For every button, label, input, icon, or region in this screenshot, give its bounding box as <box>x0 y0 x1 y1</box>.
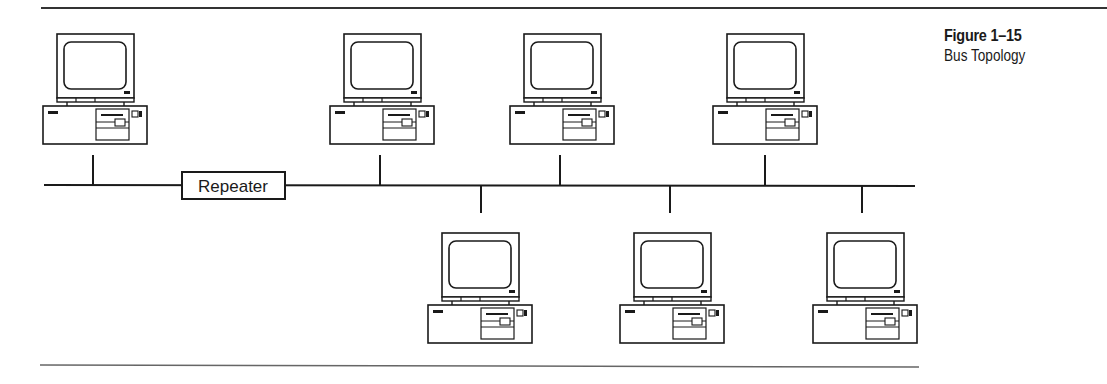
figure-number: Figure 1–15 <box>944 26 1025 46</box>
bottom-rule <box>40 365 919 367</box>
computer-icon-pc-3 <box>510 34 614 144</box>
computer-icon-pc-6 <box>620 233 724 343</box>
repeater-label: Repeater <box>198 177 268 196</box>
computer-icon-pc-1 <box>43 34 147 144</box>
computer-icon-pc-2 <box>330 34 434 144</box>
bus-topology-diagram: Repeater <box>0 0 1107 384</box>
repeater-node: Repeater <box>182 172 285 199</box>
computer-icon-pc-5 <box>428 233 532 343</box>
computer-icon-pc-4 <box>713 34 817 144</box>
computer-icon-pc-7 <box>813 233 917 343</box>
figure-caption: Figure 1–15 Bus Topology <box>944 26 1040 65</box>
bus-cable <box>44 185 915 186</box>
figure-title: Bus Topology <box>944 47 1025 65</box>
